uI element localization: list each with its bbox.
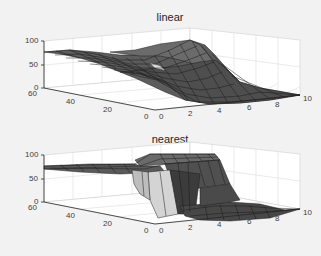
x-tick: 10 bbox=[303, 209, 312, 217]
y-tick: 20 bbox=[103, 220, 112, 228]
x-tick: 4 bbox=[217, 107, 221, 115]
y-tick: 0 bbox=[144, 227, 148, 235]
z-tick: 50 bbox=[29, 61, 38, 69]
y-tick: 40 bbox=[66, 98, 75, 106]
y-tick: 60 bbox=[28, 204, 37, 212]
y-tick: 60 bbox=[28, 90, 37, 98]
x-tick: 6 bbox=[247, 218, 251, 226]
panel-linear: linear bbox=[0, 0, 321, 128]
figure: linear bbox=[0, 0, 321, 256]
z-tick: 100 bbox=[25, 37, 38, 45]
x-tick: 8 bbox=[275, 215, 279, 223]
y-tick: 0 bbox=[144, 113, 148, 121]
x-tick: 10 bbox=[303, 95, 312, 103]
x-tick: 8 bbox=[275, 101, 279, 109]
x-tick: 0 bbox=[159, 227, 163, 235]
y-tick: 20 bbox=[103, 106, 112, 114]
x-tick: 4 bbox=[217, 221, 221, 229]
x-tick: 6 bbox=[247, 104, 251, 112]
z-tick: 50 bbox=[29, 175, 38, 183]
x-tick: 2 bbox=[188, 110, 192, 118]
x-tick: 0 bbox=[159, 113, 163, 121]
axes-3d bbox=[0, 0, 321, 128]
panel-nearest: nearest bbox=[0, 122, 321, 250]
z-tick: 100 bbox=[25, 151, 38, 159]
y-tick: 40 bbox=[66, 212, 75, 220]
x-tick: 2 bbox=[188, 224, 192, 232]
